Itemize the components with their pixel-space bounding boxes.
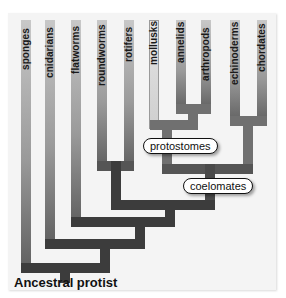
clade-label-coelomates: coelomates: [183, 178, 253, 194]
root-label: Ancestral protist: [14, 275, 117, 290]
node-bilateria: [71, 217, 175, 227]
label-arthropods: arthropods: [200, 27, 211, 81]
label-sponges: sponges: [20, 28, 31, 70]
label-chordates: chordates: [256, 23, 267, 72]
node-bilateria-upper: [111, 200, 215, 210]
label-flatworms: flatworms: [70, 26, 81, 74]
label-mollusks: mollusks: [148, 21, 159, 65]
label-roundworms: roundworms: [96, 24, 107, 86]
node-eumetazoa: [45, 239, 145, 249]
label-annelids: annelids: [175, 22, 186, 63]
label-cnidarians: cnidarians: [44, 27, 55, 78]
node-protostome-coelomates: [150, 120, 198, 130]
clade-label-protostomes: protostomes: [143, 138, 218, 154]
label-echinoderms: echinoderms: [229, 22, 240, 85]
label-rotifers: rotifers: [123, 27, 134, 62]
